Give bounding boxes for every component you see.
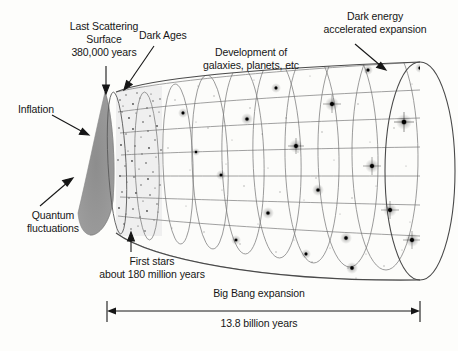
dark-ages-speckle [116,86,162,236]
label-first-stars: First stars about 180 million years [58,255,246,281]
label-big-bang-expansion: Big Bang expansion [175,287,343,300]
cosmic-timeline-figure: Last Scattering Surface 380,000 years Da… [0,0,458,351]
label-dark-ages: Dark Ages [139,29,219,42]
expansion-cone [104,40,455,280]
label-inflation: Inflation [18,103,84,116]
label-quantum-fluctuations: Quantum fluctuations [10,209,96,235]
label-development-of-galaxies: Development of galaxies, planets, etc [186,46,316,72]
arrow-last-scattering [103,66,110,94]
arrow-inflation [52,115,89,135]
label-duration: 13.8 billion years [175,317,343,330]
arrow-quantum-fluctuations [40,178,73,206]
label-dark-energy-accelerated-expansion: Dark energy accelerated expansion [302,10,448,36]
